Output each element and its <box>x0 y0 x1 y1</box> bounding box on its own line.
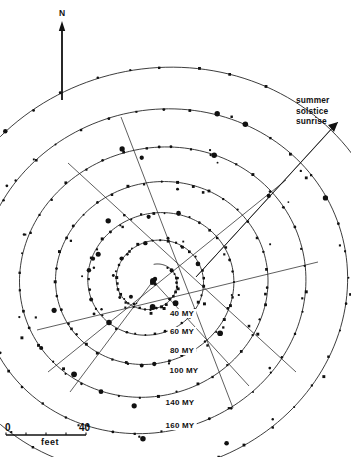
post-hole <box>133 303 136 306</box>
post-hole <box>158 67 160 69</box>
post-hole <box>132 403 137 408</box>
post-hole <box>123 214 125 216</box>
post-hole <box>2 199 5 202</box>
post-hole <box>129 69 131 71</box>
post-hole <box>264 303 267 306</box>
post-hole <box>233 281 235 283</box>
post-hole <box>64 181 67 184</box>
post-hole <box>32 446 34 448</box>
post-hole <box>125 301 127 303</box>
post-hole <box>18 316 20 318</box>
post-hole <box>157 395 160 398</box>
post-hole <box>93 312 96 315</box>
post-hole <box>235 163 237 165</box>
post-hole <box>115 276 118 279</box>
post-hole <box>65 416 67 418</box>
post-hole <box>175 390 177 392</box>
post-hole <box>5 184 8 187</box>
post-hole <box>62 367 65 370</box>
post-hole <box>21 252 23 254</box>
post-hole <box>270 371 272 373</box>
post-hole <box>188 250 191 253</box>
site-plan-figure: N 40 MY60 MY80 MY100 MY140 MY160 MY 0 40… <box>0 0 351 457</box>
post-hole <box>55 144 57 146</box>
post-hole <box>166 267 168 269</box>
post-hole <box>294 333 296 335</box>
post-hole <box>87 268 91 272</box>
post-hole <box>300 248 302 250</box>
post-hole <box>223 253 225 255</box>
post-hole <box>163 307 166 310</box>
post-hole <box>339 330 341 332</box>
post-hole <box>167 237 170 240</box>
post-hole <box>281 356 284 359</box>
post-hole <box>118 395 120 397</box>
post-hole <box>180 245 182 247</box>
post-hole <box>14 179 16 181</box>
post-hole <box>100 308 102 310</box>
post-hole <box>20 336 23 339</box>
post-hole <box>198 221 201 224</box>
post-hole <box>337 222 340 225</box>
post-hole <box>209 154 211 156</box>
post-hole <box>174 273 176 275</box>
solstice-line-3: sunrise <box>296 116 329 127</box>
post-hole <box>130 219 132 221</box>
post-hole <box>112 274 115 277</box>
post-hole <box>124 307 126 309</box>
post-hole <box>70 240 72 242</box>
post-hole <box>322 375 325 378</box>
post-hole <box>175 281 178 284</box>
post-hole <box>158 146 161 149</box>
post-hole <box>60 308 63 311</box>
post-hole <box>126 253 129 256</box>
post-hole <box>304 265 306 267</box>
post-hole <box>311 384 313 386</box>
post-hole <box>345 302 348 305</box>
post-hole <box>150 312 153 315</box>
post-hole <box>265 268 268 271</box>
post-hole <box>22 310 25 313</box>
post-hole <box>80 382 83 385</box>
post-hole <box>96 248 98 250</box>
post-hole <box>38 214 40 216</box>
post-hole <box>118 296 121 299</box>
post-hole <box>301 297 303 299</box>
post-hole <box>265 85 268 88</box>
scale-bar-left-label: 0 <box>5 422 11 433</box>
post-hole <box>226 364 228 366</box>
post-hole <box>262 251 264 253</box>
post-hole <box>176 181 179 184</box>
post-hole <box>80 129 82 131</box>
post-hole <box>96 252 101 257</box>
post-hole <box>256 333 259 336</box>
ring-label: 100 MY <box>170 366 199 375</box>
solstice-line-1: summer <box>296 95 329 106</box>
solstice-line-2: solstice <box>296 106 329 117</box>
post-hole <box>150 304 156 310</box>
post-hole <box>202 191 205 194</box>
post-hole <box>119 256 123 260</box>
post-hole <box>198 67 201 70</box>
post-hole <box>172 295 174 297</box>
post-hole <box>143 183 145 185</box>
post-hole <box>164 330 167 333</box>
post-hole <box>289 153 292 156</box>
north-arrow: N <box>59 8 65 100</box>
post-hole <box>177 277 179 279</box>
post-hole <box>29 232 31 234</box>
post-hole <box>300 170 302 172</box>
post-hole <box>119 146 124 151</box>
post-hole <box>85 343 88 346</box>
post-hole <box>217 330 223 336</box>
post-hole <box>269 190 272 193</box>
post-hole <box>230 116 232 118</box>
post-hole <box>65 237 68 240</box>
post-hole <box>194 255 196 257</box>
post-hole <box>181 322 183 324</box>
post-hole <box>75 333 77 335</box>
post-hole <box>282 206 285 209</box>
post-hole <box>224 441 229 446</box>
ring-label: 80 MY <box>170 346 195 355</box>
post-hole <box>127 302 129 304</box>
